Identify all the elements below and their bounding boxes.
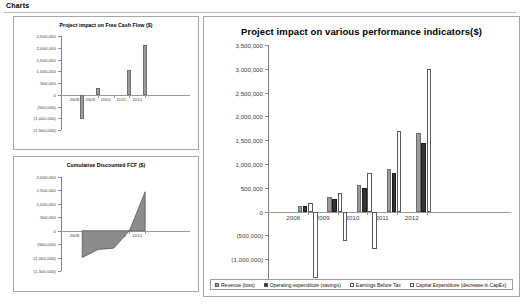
y-axis-label: (1,000,000)	[34, 255, 56, 260]
y-axis-label: (500,000)	[37, 242, 56, 247]
y-axis-label: 1,000,000	[36, 201, 56, 206]
x-axis-label: 2010	[346, 214, 360, 221]
y-axis-label: 500,000	[241, 184, 263, 191]
y-axis-tick	[265, 164, 268, 165]
x-axis-label: 2008	[69, 97, 79, 102]
chart-panel-free-cash-flow[interactable]: Project impact on Free Cash Flow ($) 2,5…	[13, 16, 199, 150]
y-axis-label: 2,000,000	[36, 45, 56, 50]
x-axis-label: 2009	[316, 214, 330, 221]
y-axis-tick	[265, 188, 268, 189]
x-axis-label: 2011	[375, 214, 388, 221]
bar-2008-series-0[interactable]	[298, 206, 303, 212]
legend-swatch-icon	[350, 283, 354, 287]
y-axis-label: 0	[260, 208, 263, 215]
bar-2011-series-0[interactable]	[387, 169, 392, 212]
y-axis-tick	[58, 36, 61, 37]
y-axis-tick	[58, 130, 61, 131]
bar-2008-series-3[interactable]	[313, 212, 318, 279]
y-axis-tick	[58, 60, 61, 61]
title-divider	[4, 12, 516, 13]
y-axis-tick	[265, 212, 268, 213]
y-axis-tick	[58, 48, 61, 49]
x-axis-label: 2012	[132, 97, 142, 102]
legend-item-1[interactable]: Operating expenditure (savings)	[264, 282, 341, 288]
legend-label: Capital Expenditure (decrease in CapEx)	[416, 282, 507, 288]
bar-2008-series-0[interactable]	[80, 95, 84, 120]
legend-item-3[interactable]: Capital Expenditure (decrease in CapEx)	[410, 282, 507, 288]
bar-2008-series-1[interactable]	[303, 206, 308, 211]
bar-2009-series-1[interactable]	[332, 199, 337, 211]
y-axis-label: (1,500,000)	[34, 269, 56, 274]
x-axis-label: 2011	[117, 97, 126, 102]
bar-2011-series-2[interactable]	[397, 131, 402, 212]
bar-2010-series-2[interactable]	[367, 173, 372, 212]
y-axis-label: (1,000,000)	[34, 116, 56, 121]
bar-2009-series-2[interactable]	[338, 193, 343, 212]
y-axis-tick	[58, 71, 61, 72]
y-axis-label: (500,000)	[237, 232, 264, 239]
x-axis-label: 2008	[286, 214, 300, 221]
bar-2011-series-0[interactable]	[127, 70, 131, 95]
legend-swatch-icon	[264, 283, 268, 287]
legend-swatch-icon	[410, 283, 414, 287]
x-axis-tick	[145, 95, 146, 98]
bar-2010-series-3[interactable]	[372, 212, 377, 249]
y-axis-label: (500,000)	[37, 104, 56, 109]
bar-2012-series-1[interactable]	[421, 143, 426, 212]
y-axis-tick	[265, 69, 268, 70]
bar-2010-series-1[interactable]	[362, 188, 367, 212]
charts-page: Charts Project impact on Free Cash Flow …	[0, 0, 523, 304]
y-axis-tick	[58, 118, 61, 119]
legend-swatch-icon	[215, 283, 219, 287]
y-axis-label: (1,000,000)	[231, 256, 263, 263]
y-axis-tick	[265, 93, 268, 94]
chart-title-cumulative-dfcf: Cumulative Discounted FCF ($)	[14, 162, 198, 168]
legend-item-0[interactable]: Revenue (loss)	[215, 282, 255, 288]
y-axis-tick	[58, 95, 61, 96]
x-axis-label: 2012	[405, 214, 419, 221]
x-axis-tick	[338, 212, 339, 215]
y-axis-tick	[58, 271, 61, 272]
y-axis-tick	[58, 107, 61, 108]
y-axis-label: 1,000,000	[36, 69, 56, 74]
bar-2008-series-2[interactable]	[308, 203, 313, 212]
x-axis-tick	[397, 212, 398, 215]
x-axis-tick	[98, 95, 99, 98]
y-axis-tick	[265, 116, 268, 117]
y-axis-label: 2,500,000	[36, 34, 56, 39]
x-axis-tick	[114, 95, 115, 98]
bar-2012-series-0[interactable]	[416, 133, 421, 212]
y-axis-tick	[265, 235, 268, 236]
x-axis	[268, 212, 511, 213]
bar-2012-series-2[interactable]	[427, 69, 432, 212]
y-axis-label: 1,000,000	[235, 161, 263, 168]
y-axis-label: 0	[54, 92, 56, 97]
y-axis	[268, 45, 269, 283]
x-axis-tick	[129, 95, 130, 98]
bar-2009-series-0[interactable]	[327, 197, 332, 211]
y-axis-tick	[265, 140, 268, 141]
legend-item-2[interactable]: Earnings Before Tax	[350, 282, 401, 288]
chart-title-performance-indicators: Project impact on various performance in…	[204, 26, 519, 37]
plot-area-free-cash-flow: 2,500,0002,000,0001,500,0001,000,000500,…	[61, 36, 190, 130]
chart-panel-cumulative-dfcf[interactable]: Cumulative Discounted FCF ($) 2,000,0001…	[13, 156, 199, 292]
y-axis-tick	[265, 259, 268, 260]
y-axis-label: 2,500,000	[235, 89, 263, 96]
bar-2009-series-0[interactable]	[96, 88, 100, 95]
bar-2009-series-3[interactable]	[343, 212, 348, 242]
bar-2012-series-0[interactable]	[143, 45, 147, 94]
y-axis-label: 500,000	[40, 81, 56, 86]
x-axis-label: 2009	[85, 97, 95, 102]
bar-2011-series-1[interactable]	[392, 173, 397, 212]
legend-label: Earnings Before Tax	[356, 282, 401, 288]
y-axis-label: 2,000,000	[235, 113, 263, 120]
plot-area-performance-indicators: 3,500,0003,000,0002,500,0002,000,0001,50…	[268, 45, 511, 283]
y-axis-label: 0	[54, 228, 56, 233]
y-axis-label: 1,500,000	[36, 188, 56, 193]
chart-panel-performance-indicators[interactable]: Project impact on various performance in…	[203, 16, 520, 297]
legend-label: Revenue (loss)	[221, 282, 255, 288]
bar-2010-series-0[interactable]	[357, 185, 362, 212]
y-axis-label: 500,000	[40, 215, 56, 220]
chart-legend: Revenue (loss)Operating expenditure (sav…	[210, 279, 513, 290]
chart-title-free-cash-flow: Project impact on Free Cash Flow ($)	[14, 22, 198, 28]
